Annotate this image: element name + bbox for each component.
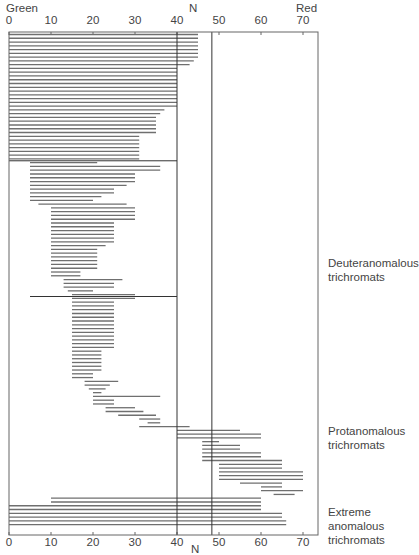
group-label-line: trichromats [328,438,405,452]
group-label-line: Deuteranomalous [328,256,419,270]
tick-label: 40 [171,536,184,548]
bottom-axis-ticks: 010203040506070 [6,532,310,548]
red-end-label: Red [296,2,317,14]
green-end-label: Green [6,2,38,14]
n-top-label: N [189,2,197,14]
tick-label: 60 [255,14,268,26]
tick-label: 30 [129,14,142,26]
group-label-line: anomalous [328,519,385,533]
group-label-line: trichromats [328,270,419,284]
tick-label: 20 [87,14,100,26]
group-label-line: Protanomalous [328,424,405,438]
bars [9,35,303,525]
n-bottom-label: N [191,543,199,555]
tick-label: 60 [255,536,268,548]
tick-label: 20 [87,536,100,548]
tick-label: 50 [213,14,226,26]
group-label-line: trichromats [328,533,385,547]
tick-label: 10 [45,536,58,548]
group-label-line: Extreme [328,505,385,519]
tick-label: 70 [297,14,310,26]
tick-label: 70 [297,536,310,548]
tick-label: 0 [6,536,12,548]
tick-label: 30 [129,536,142,548]
group-label-protanomalous: Protanomalous trichromats [328,424,405,452]
tick-label: 10 [45,14,58,26]
tick-label: 50 [213,536,226,548]
plot-frame [9,32,318,535]
tick-label: 0 [6,14,12,26]
group-label-extreme: Extreme anomalous trichromats [328,505,385,547]
tick-label: 40 [171,14,184,26]
group-label-deuteranomalous: Deuteranomalous trichromats [328,256,419,284]
